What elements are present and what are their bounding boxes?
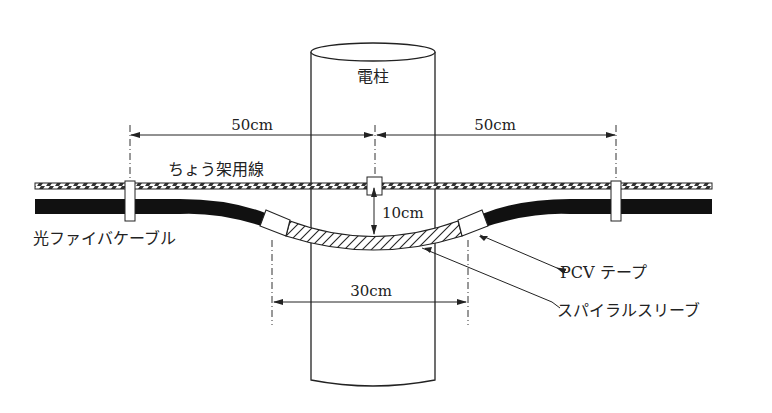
messenger-wire-label: ちょう架用線 bbox=[168, 160, 264, 179]
pcv-tape-right bbox=[458, 210, 488, 236]
tape-leader-line bbox=[480, 235, 557, 268]
cable-installation-diagram: 電柱 50cm 50cm ちょう架用線 10cm 光ファイバケーブル PCV テ… bbox=[0, 0, 772, 413]
sag-label: 10cm bbox=[382, 204, 424, 222]
left-span-label: 50cm bbox=[231, 116, 273, 134]
pcv-tape-label: PCV テープ bbox=[560, 263, 647, 282]
spiral-sleeve-label: スパイラルスリーブ bbox=[557, 301, 700, 320]
clamp-left bbox=[125, 181, 135, 221]
sleeve-leader-line bbox=[422, 248, 552, 302]
clamp-right bbox=[611, 181, 621, 221]
sleeve-span-label: 30cm bbox=[350, 282, 392, 300]
pcv-tape-left bbox=[260, 210, 290, 236]
cable-label: 光ファイバケーブル bbox=[33, 229, 176, 248]
fiber-optic-cable bbox=[35, 199, 268, 228]
fiber-optic-cable-right bbox=[482, 199, 712, 228]
right-span-label: 50cm bbox=[474, 116, 516, 134]
pole-label: 電柱 bbox=[357, 67, 389, 86]
